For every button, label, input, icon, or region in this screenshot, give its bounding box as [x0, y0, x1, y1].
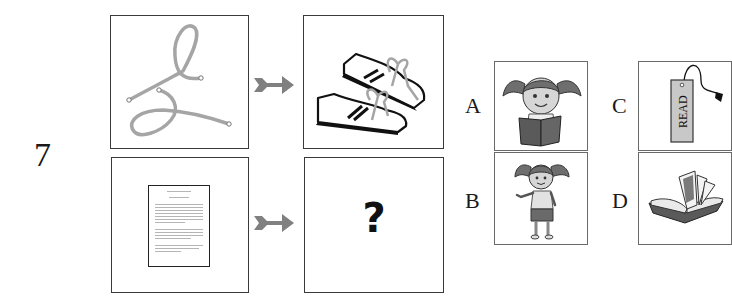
question-mark: ? — [305, 198, 443, 238]
bookmark-text: READ — [676, 95, 690, 128]
option-a[interactable] — [494, 61, 588, 151]
answer-placeholder-box: ? — [304, 157, 444, 293]
bookmark-icon: READ — [639, 62, 731, 150]
option-c[interactable]: READ — [638, 61, 732, 151]
prompt-box-document — [111, 157, 249, 293]
open-book-icon — [639, 153, 731, 244]
question-number: 7 — [34, 138, 51, 172]
prompt-box-sneakers — [303, 15, 444, 149]
option-d[interactable] — [638, 152, 732, 245]
arrow-right-icon — [254, 74, 296, 96]
option-label-c: C — [612, 95, 627, 117]
option-b[interactable] — [494, 152, 588, 245]
document-page-icon — [148, 185, 210, 267]
shoelace-icon — [111, 16, 247, 147]
girl-reading-book-icon — [495, 62, 587, 150]
option-label-b: B — [465, 190, 480, 212]
prompt-box-shoelace — [110, 15, 249, 149]
sneakers-icon — [304, 16, 442, 147]
option-label-d: D — [612, 190, 628, 212]
girl-standing-icon — [495, 153, 587, 244]
option-label-a: A — [465, 95, 481, 117]
arrow-right-icon — [254, 212, 296, 234]
